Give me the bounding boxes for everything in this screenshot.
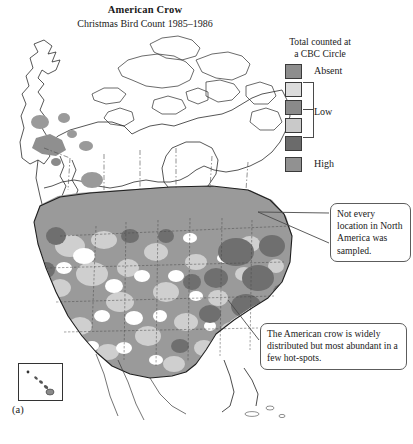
panel-label: (a) [12, 404, 24, 415]
callout-sampling: Not every location in North America was … [330, 203, 411, 262]
figure-panel: American Crow Christmas Bird Count 1985–… [0, 0, 413, 444]
callout-abundance: The American crow is widely distributed … [260, 323, 407, 370]
